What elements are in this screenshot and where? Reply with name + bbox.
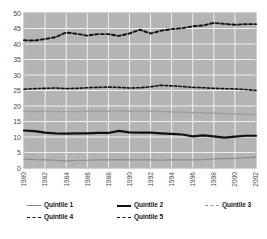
x-axis-tick-label: 1998 [210, 172, 217, 187]
x-axis-tick-label: 1996 [189, 172, 196, 187]
y-axis-tick-label: 25 [13, 87, 21, 94]
legend-swatch-quintile-3-icon [205, 201, 219, 208]
legend-label-quintile-5: Quintile 5 [134, 213, 163, 220]
y-axis-tick-label: 40 [13, 41, 21, 48]
x-axis-tick-label: 1994 [168, 172, 175, 187]
legend-swatch-quintile-1-icon [27, 201, 41, 208]
legend-row-2: Quintile 4 Quintile 5 [0, 213, 267, 225]
x-axis-tick-label: 1992 [147, 172, 154, 187]
legend-item-quintile-2[interactable]: Quintile 2 [117, 201, 163, 208]
y-axis-tick-label: 15 [13, 118, 21, 125]
x-axis-tick-label: 2000 [231, 172, 238, 187]
legend-label-quintile-2: Quintile 2 [134, 201, 163, 208]
legend-label-quintile-4: Quintile 4 [44, 213, 73, 220]
y-axis-tick-label: 10 [13, 134, 21, 141]
chart-plot-area: 0510152025303540455019801982198419861988… [0, 0, 267, 205]
y-axis-tick-label: 30 [13, 72, 21, 79]
chart-svg: 0510152025303540455019801982198419861988… [0, 0, 267, 205]
x-axis-tick-label: 1984 [63, 172, 70, 187]
y-axis-tick-label: 35 [13, 56, 21, 63]
chart-legend: Quintile 1 Quintile 2 Quintile 3 Quintil… [0, 198, 267, 232]
y-axis-tick-label: 0 [17, 165, 21, 172]
x-axis-tick-label: 1986 [84, 172, 91, 187]
y-axis-tick-label: 20 [13, 103, 21, 110]
legend-row-1: Quintile 1 Quintile 2 Quintile 3 [0, 201, 267, 213]
legend-swatch-quintile-4-icon [27, 213, 41, 220]
x-axis-tick-label: 1988 [105, 172, 112, 187]
x-axis-tick-label: 1980 [20, 172, 27, 187]
legend-item-quintile-3[interactable]: Quintile 3 [205, 201, 251, 208]
y-axis-tick-label: 45 [13, 25, 21, 32]
y-axis-tick-label: 50 [13, 10, 21, 17]
legend-item-quintile-5[interactable]: Quintile 5 [117, 213, 163, 220]
legend-label-quintile-1: Quintile 1 [44, 201, 73, 208]
legend-item-quintile-4[interactable]: Quintile 4 [27, 213, 73, 220]
x-axis-tick-label: 2002 [252, 172, 259, 187]
legend-swatch-quintile-5-icon [117, 213, 131, 220]
x-axis-tick-label: 1990 [126, 172, 133, 187]
x-axis-tick-label: 1982 [41, 172, 48, 187]
legend-item-quintile-1[interactable]: Quintile 1 [27, 201, 73, 208]
legend-label-quintile-3: Quintile 3 [222, 201, 251, 208]
quintile-share-line-chart: 0510152025303540455019801982198419861988… [0, 0, 267, 239]
y-axis-tick-label: 5 [17, 149, 21, 156]
legend-swatch-quintile-2-icon [117, 201, 131, 208]
chart-caption [20, 229, 260, 239]
